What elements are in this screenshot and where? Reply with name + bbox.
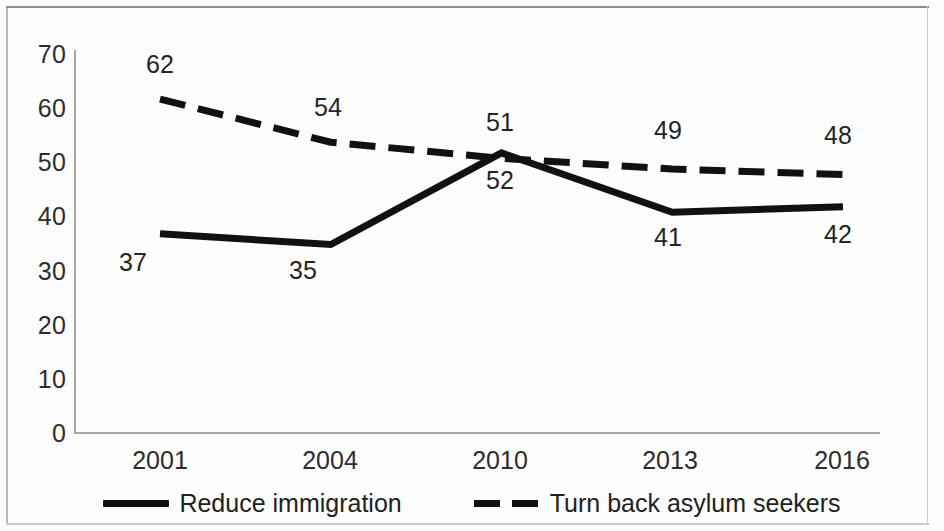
data-label-asylum-2001: 62 bbox=[125, 52, 195, 77]
data-label-reduce-2010: 52 bbox=[465, 168, 535, 193]
legend-swatch-dashed-line-icon bbox=[474, 500, 540, 507]
chart-page: 70 60 50 40 30 20 10 0 2001 2004 2010 20… bbox=[0, 0, 944, 531]
data-label-asylum-2004: 54 bbox=[293, 95, 363, 120]
data-label-reduce-2001: 37 bbox=[98, 250, 168, 275]
data-label-reduce-2004: 35 bbox=[268, 258, 338, 283]
data-label-asylum-2010: 51 bbox=[465, 110, 535, 135]
legend-item-reduce-immigration[interactable]: Reduce immigration bbox=[103, 491, 401, 516]
data-label-asylum-2016: 48 bbox=[803, 123, 873, 148]
data-label-reduce-2016: 42 bbox=[803, 222, 873, 247]
chart-legend: Reduce immigration Turn back asylum seek… bbox=[0, 483, 944, 523]
legend-label-reduce-immigration: Reduce immigration bbox=[179, 491, 401, 516]
legend-swatch-solid-line-icon bbox=[103, 500, 169, 507]
legend-item-turn-back-asylum-seekers[interactable]: Turn back asylum seekers bbox=[474, 491, 841, 516]
data-label-asylum-2013: 49 bbox=[633, 118, 703, 143]
legend-label-turn-back-asylum-seekers: Turn back asylum seekers bbox=[550, 491, 841, 516]
data-label-reduce-2013: 41 bbox=[633, 225, 703, 250]
